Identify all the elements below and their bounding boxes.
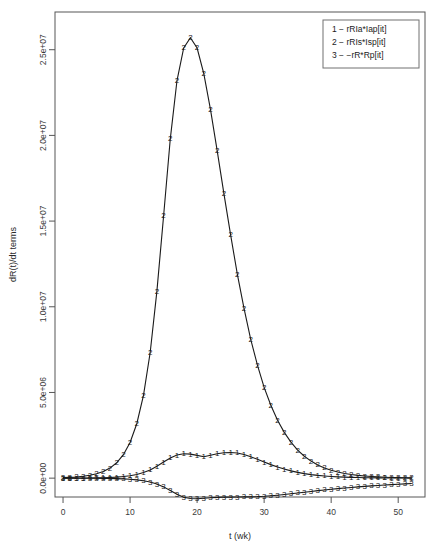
series-marker-1: 1 xyxy=(269,460,274,469)
series-marker-3: 3 xyxy=(202,494,207,503)
series-marker-1: 1 xyxy=(322,471,327,480)
series-marker-1: 1 xyxy=(275,463,280,472)
plot-frame xyxy=(55,12,425,497)
series-marker-2: 2 xyxy=(248,335,253,344)
series-marker-3: 3 xyxy=(289,489,294,498)
y-tick-label: 5.0e+06 xyxy=(38,377,48,408)
y-axis-title: dR(t)/dt terms xyxy=(8,227,18,283)
series-marker-1: 1 xyxy=(235,448,240,457)
y-tick-label: 1.5e+07 xyxy=(38,205,48,236)
series-marker-3: 3 xyxy=(101,474,106,483)
x-axis-title: t (wk) xyxy=(229,531,251,541)
series-marker-1: 1 xyxy=(188,450,193,459)
data-series-group: 1111111111111111111111111111111111111111… xyxy=(61,33,415,503)
series-marker-2: 2 xyxy=(208,105,213,114)
series-marker-1: 1 xyxy=(302,469,307,478)
plot-frame-group xyxy=(55,12,425,497)
x-tick-label: 30 xyxy=(259,507,269,517)
series-marker-3: 3 xyxy=(248,492,253,501)
series-marker-2: 2 xyxy=(336,468,341,477)
series-marker-2: 2 xyxy=(195,43,200,52)
series-marker-3: 3 xyxy=(383,481,388,490)
series-marker-2: 2 xyxy=(269,401,274,410)
series-marker-2: 2 xyxy=(362,472,367,481)
series-marker-1: 1 xyxy=(248,452,253,461)
series-marker-3: 3 xyxy=(269,491,274,500)
series-marker-3: 3 xyxy=(396,480,401,489)
series-marker-1: 1 xyxy=(222,448,227,457)
x-tick-label: 40 xyxy=(326,507,336,517)
series-marker-3: 3 xyxy=(228,493,233,502)
series-marker-3: 3 xyxy=(168,486,173,495)
series-marker-3: 3 xyxy=(376,481,381,490)
series-marker-3: 3 xyxy=(208,493,213,502)
series-marker-2: 2 xyxy=(202,69,207,78)
series-marker-3: 3 xyxy=(255,492,260,501)
chart-legend: 1 − rRIa*Iap[it]2 − rRIs*Isp[it]3 − −rR*… xyxy=(323,20,419,68)
series-marker-3: 3 xyxy=(275,491,280,500)
series-marker-2: 2 xyxy=(322,463,327,472)
series-marker-2: 2 xyxy=(369,472,374,481)
series-marker-3: 3 xyxy=(148,478,153,487)
series-marker-3: 3 xyxy=(322,485,327,494)
series-marker-3: 3 xyxy=(141,476,146,485)
series-marker-3: 3 xyxy=(68,474,73,483)
series-marker-3: 3 xyxy=(369,481,374,490)
series-marker-3: 3 xyxy=(195,494,200,503)
x-tick-label: 20 xyxy=(192,507,202,517)
series-marker-3: 3 xyxy=(88,474,93,483)
series-marker-1: 1 xyxy=(175,451,180,460)
y-tick-label: 0.0e+00 xyxy=(38,462,48,493)
series-marker-2: 2 xyxy=(342,469,347,478)
series-marker-2: 2 xyxy=(128,438,133,447)
series-marker-3: 3 xyxy=(135,475,140,484)
series-marker-1: 1 xyxy=(295,468,300,477)
series-marker-3: 3 xyxy=(188,494,193,503)
y-tick-label: 2.5e+07 xyxy=(38,34,48,65)
series-marker-2: 2 xyxy=(114,458,119,467)
series-marker-3: 3 xyxy=(114,474,119,483)
series-marker-2: 2 xyxy=(215,146,220,155)
chart-figure: 01020304050 0.0e+005.0e+061.0e+071.5e+07… xyxy=(0,0,440,560)
series-marker-3: 3 xyxy=(235,493,240,502)
legend-entry-2: 2 − rRIs*Isp[it] xyxy=(332,37,386,47)
series-marker-2: 2 xyxy=(168,134,173,143)
series-marker-1: 1 xyxy=(148,465,153,474)
series-line-2 xyxy=(63,38,412,478)
series-marker-2: 2 xyxy=(302,452,307,461)
legend-entry-1: 1 − rRIa*Iap[it] xyxy=(332,24,387,34)
series-marker-3: 3 xyxy=(342,484,347,493)
series-marker-2: 2 xyxy=(242,304,247,313)
series-marker-2: 2 xyxy=(275,416,280,425)
series-marker-2: 2 xyxy=(316,460,321,469)
series-marker-2: 2 xyxy=(135,419,140,428)
series-marker-1: 1 xyxy=(202,452,207,461)
series-marker-2: 2 xyxy=(222,189,227,198)
series-marker-3: 3 xyxy=(94,474,99,483)
series-marker-1: 1 xyxy=(168,453,173,462)
y-axis-ticks: 0.0e+005.0e+061.0e+071.5e+072.0e+072.5e+… xyxy=(38,34,55,494)
series-marker-3: 3 xyxy=(309,487,314,496)
series-marker-3: 3 xyxy=(215,493,220,502)
series-marker-2: 2 xyxy=(121,450,126,459)
series-marker-1: 1 xyxy=(255,455,260,464)
series-marker-2: 2 xyxy=(356,471,361,480)
x-tick-label: 0 xyxy=(61,507,66,517)
series-marker-1: 1 xyxy=(161,458,166,467)
series-marker-3: 3 xyxy=(356,482,361,491)
series-marker-2: 2 xyxy=(282,428,287,437)
series-marker-2: 2 xyxy=(108,464,113,473)
series-marker-1: 1 xyxy=(181,449,186,458)
series-marker-3: 3 xyxy=(175,490,180,499)
series-marker-1: 1 xyxy=(228,448,233,457)
series-marker-2: 2 xyxy=(329,466,334,475)
series-marker-1: 1 xyxy=(316,471,321,480)
series-marker-3: 3 xyxy=(389,480,394,489)
chart-canvas: 01020304050 0.0e+005.0e+061.0e+071.5e+07… xyxy=(0,0,440,560)
series-marker-3: 3 xyxy=(222,493,227,502)
series-marker-2: 2 xyxy=(309,457,314,466)
series-marker-2: 2 xyxy=(161,211,166,220)
series-marker-3: 3 xyxy=(128,475,133,484)
series-marker-3: 3 xyxy=(108,474,113,483)
series-marker-3: 3 xyxy=(282,490,287,499)
